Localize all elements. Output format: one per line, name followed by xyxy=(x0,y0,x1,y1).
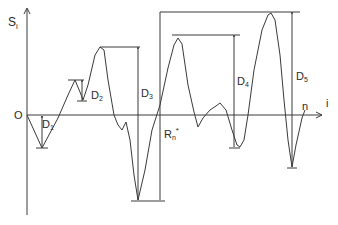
range-label: Rn* xyxy=(164,126,179,141)
d3-label: D3 xyxy=(141,87,153,100)
drawdown-d3-marker xyxy=(100,47,165,201)
y-axis xyxy=(24,8,30,215)
d1-label: D1 xyxy=(42,118,54,131)
range-marker xyxy=(160,12,300,200)
y-axis-label: Si xyxy=(8,15,18,31)
d5-label: D5 xyxy=(296,70,308,83)
cumulative-curve xyxy=(27,13,305,200)
x-axis xyxy=(27,112,322,118)
origin-label: O xyxy=(14,109,23,121)
d4-label: D4 xyxy=(237,75,249,88)
drawdown-d4-marker xyxy=(172,35,240,148)
d2-label: D2 xyxy=(91,89,103,102)
x-axis-label: i xyxy=(326,97,328,109)
end-label: n xyxy=(302,100,308,112)
cumulative-sum-diagram: Si O i n D1 D2 D3 D4 D5 Rn* xyxy=(0,0,338,225)
